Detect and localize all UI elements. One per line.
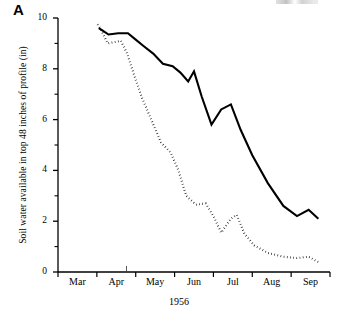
series-dotted-line <box>98 24 321 263</box>
x-tick-label: Sep <box>291 277 331 287</box>
chart-plot-area <box>0 0 358 322</box>
x-tick-label: Mar <box>57 277 97 287</box>
page-edge-artifact <box>276 0 318 4</box>
y-tick-label: 6 <box>31 115 47 125</box>
x-tick-label: Apr <box>96 277 136 287</box>
x-tick-label: Jul <box>213 277 253 287</box>
y-axis-title: Soil water available in top 48 inches of… <box>18 30 28 260</box>
print-speck-artifact <box>126 266 127 271</box>
x-tick-label: Jun <box>174 277 214 287</box>
x-tick-label: Aug <box>252 277 292 287</box>
y-tick-label: 10 <box>31 13 47 23</box>
y-tick-label: 0 <box>31 267 47 277</box>
x-tick-label: May <box>135 277 175 287</box>
y-tick-label: 2 <box>31 216 47 226</box>
panel-letter-label: A <box>13 2 24 18</box>
data-series-group <box>98 24 321 263</box>
series-solid-line <box>99 28 319 219</box>
x-axis-title: 1956 <box>0 296 358 307</box>
y-tick-label: 4 <box>31 165 47 175</box>
y-tick-label: 8 <box>31 64 47 74</box>
axes-group <box>53 18 330 277</box>
figure-panel: A Soil water available in top 48 inches … <box>0 0 358 322</box>
